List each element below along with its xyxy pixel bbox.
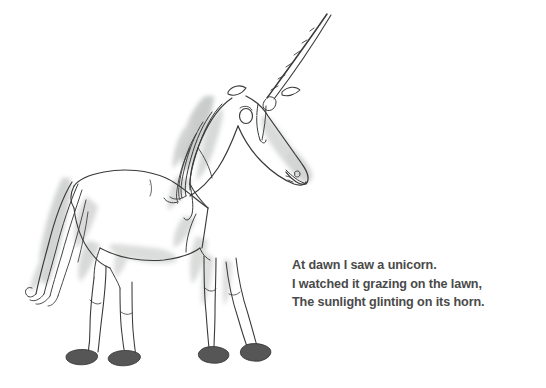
front-leg-wash-2 [223, 258, 233, 306]
ears [228, 86, 300, 96]
hoof-hind-far [108, 350, 140, 365]
horn [263, 14, 331, 111]
watercolor-wash-layer [30, 96, 312, 306]
hind-leg-far [120, 282, 136, 356]
poem-text-block: At dawn I saw a unicorn. I watched it gr… [292, 256, 522, 312]
ink-line-layer [25, 14, 331, 356]
poem-line-1: At dawn I saw a unicorn. [292, 256, 522, 275]
hind-leg-near [88, 266, 106, 354]
forelock [257, 104, 266, 143]
hoof-front-near [198, 347, 229, 364]
poem-line-2: I watched it grazing on the lawn, [292, 275, 522, 294]
poem-line-3: The sunlight glinting on its horn. [292, 293, 522, 312]
hoof-front-far [240, 344, 271, 362]
hoof-hind-near [66, 349, 98, 364]
hooves [66, 344, 271, 366]
eye [240, 106, 253, 123]
unicorn-svg [0, 0, 360, 388]
page-canvas: At dawn I saw a unicorn. I watched it gr… [0, 0, 546, 388]
unicorn-illustration [0, 0, 360, 388]
